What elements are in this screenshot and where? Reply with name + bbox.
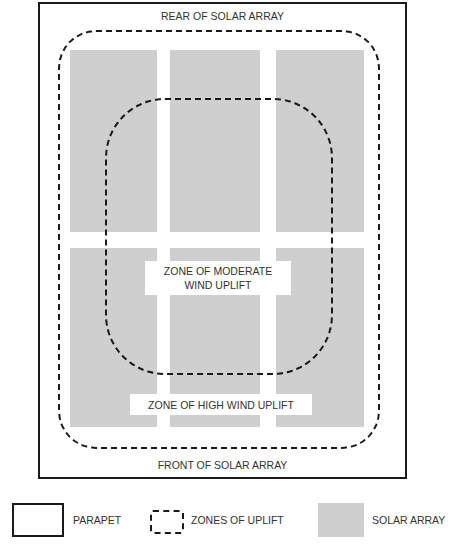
legend-zones-symbol <box>150 510 184 534</box>
legend-solar-label: SOLAR ARRAY <box>372 514 445 526</box>
rear-label: REAR OF SOLAR ARRAY <box>38 10 407 22</box>
legend-zones-label: ZONES OF UPLIFT <box>191 514 284 526</box>
legend-parapet-label: PARAPET <box>73 514 121 526</box>
high-zone-label: ZONE OF HIGH WIND UPLIFT <box>130 394 312 415</box>
moderate-uplift-zone <box>105 98 333 375</box>
front-label: FRONT OF SOLAR ARRAY <box>38 459 407 471</box>
moderate-zone-label-line2: WIND UPLIFT <box>164 278 272 292</box>
high-zone-label-text: ZONE OF HIGH WIND UPLIFT <box>148 398 294 412</box>
legend-solar-symbol <box>318 503 364 537</box>
moderate-zone-label-line1: ZONE OF MODERATE <box>164 264 272 278</box>
moderate-zone-label: ZONE OF MODERATE WIND UPLIFT <box>145 261 291 295</box>
legend-parapet-symbol <box>12 503 64 537</box>
